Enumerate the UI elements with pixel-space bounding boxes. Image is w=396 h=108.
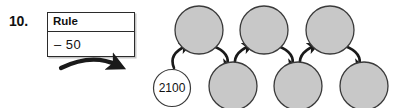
chain-node-6-circle[interactable] bbox=[340, 62, 388, 108]
chain-node-2[interactable] bbox=[209, 62, 257, 108]
chain-node-1[interactable] bbox=[175, 6, 223, 54]
number-chain-layer: 2100 bbox=[0, 0, 396, 108]
chain-node-start-value: 2100 bbox=[159, 81, 186, 95]
worksheet-problem: 10. Rule – 50 bbox=[0, 0, 396, 108]
chain-node-3-circle[interactable] bbox=[240, 6, 288, 54]
chain-node-1-circle[interactable] bbox=[175, 6, 223, 54]
chain-node-5-circle[interactable] bbox=[306, 6, 354, 54]
chain-node-6[interactable] bbox=[340, 62, 388, 108]
chain-node-start[interactable]: 2100 bbox=[154, 70, 191, 107]
chain-node-3[interactable] bbox=[240, 6, 288, 54]
chain-node-5[interactable] bbox=[306, 6, 354, 54]
chain-node-4[interactable] bbox=[274, 62, 322, 108]
chain-node-2-circle[interactable] bbox=[209, 62, 257, 108]
chain-node-4-circle[interactable] bbox=[274, 62, 322, 108]
